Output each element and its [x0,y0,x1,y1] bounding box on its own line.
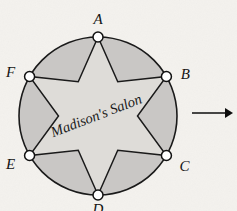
vertex-marker-b [161,72,171,82]
vertex-marker-e [25,151,35,161]
vertex-marker-a [93,32,103,42]
vertex-marker-c [161,151,171,161]
vertex-label-c: C [179,158,190,174]
vertex-d: D [92,190,104,211]
salon-star-diagram: Madison's Salon ABCDEF [0,0,237,211]
vertex-label-d: D [92,201,104,211]
vertex-label-f: F [5,64,16,80]
vertex-a: A [92,11,103,42]
vertex-marker-f [25,72,35,82]
figure-container: Madison's Salon ABCDEF [0,0,237,211]
vertex-label-a: A [92,11,103,27]
vertex-label-b: B [181,66,190,82]
vertex-marker-d [93,190,103,200]
vertex-label-e: E [5,156,15,172]
